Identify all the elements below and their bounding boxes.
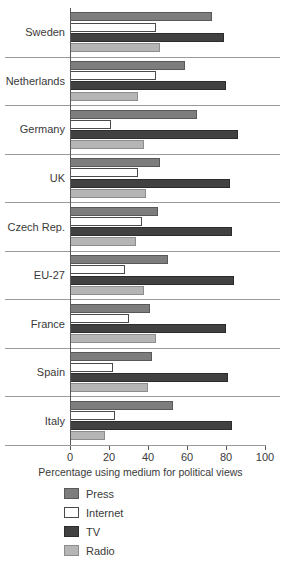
x-axis-tick-label: 0 — [67, 451, 73, 463]
bar-tv[interactable] — [70, 130, 238, 139]
bar-group-bars — [70, 202, 265, 251]
x-axis-tick-label: 60 — [181, 451, 193, 463]
bar-internet[interactable] — [70, 120, 111, 129]
bar-tv[interactable] — [70, 227, 232, 236]
category-label: EU-27 — [34, 269, 65, 281]
bar-press[interactable] — [70, 401, 173, 410]
bar-row — [70, 304, 265, 313]
category-label: Sweden — [25, 26, 65, 38]
legend-swatch-press — [64, 488, 79, 499]
category-label: Italy — [45, 415, 65, 427]
bar-tv[interactable] — [70, 81, 226, 90]
category-label: Germany — [20, 123, 65, 135]
bar-press[interactable] — [70, 352, 152, 361]
bar-row — [70, 227, 265, 236]
bar-row — [70, 265, 265, 274]
legend-label: TV — [86, 526, 100, 538]
category-label: UK — [50, 172, 65, 184]
bar-internet[interactable] — [70, 411, 115, 420]
legend-label: Internet — [86, 507, 123, 519]
bar-row — [70, 217, 265, 226]
bar-press[interactable] — [70, 110, 197, 119]
bar-group — [70, 396, 265, 445]
bar-internet[interactable] — [70, 168, 138, 177]
bar-group-bars — [70, 154, 265, 203]
bar-radio[interactable] — [70, 431, 105, 440]
bar-row — [70, 140, 265, 149]
bar-row — [70, 43, 265, 52]
bar-radio[interactable] — [70, 383, 148, 392]
bar-chart: 020406080100 SwedenNetherlandsGermanyUKC… — [0, 0, 281, 567]
bar-row — [70, 120, 265, 129]
category-label: Czech Rep. — [8, 221, 65, 233]
bar-internet[interactable] — [70, 217, 142, 226]
bar-group — [70, 202, 265, 251]
bar-group — [70, 105, 265, 154]
legend-swatch-internet — [64, 507, 79, 518]
bar-group-bars — [70, 105, 265, 154]
bar-radio[interactable] — [70, 286, 144, 295]
bar-row — [70, 189, 265, 198]
legend-label: Radio — [86, 545, 115, 557]
y-axis-line — [70, 8, 71, 445]
bar-row — [70, 401, 265, 410]
bar-internet[interactable] — [70, 363, 113, 372]
bar-row — [70, 431, 265, 440]
legend-item-internet[interactable]: Internet — [64, 503, 123, 522]
bar-row — [70, 237, 265, 246]
bar-internet[interactable] — [70, 23, 156, 32]
bar-tv[interactable] — [70, 179, 230, 188]
bar-press[interactable] — [70, 61, 185, 70]
bar-radio[interactable] — [70, 43, 160, 52]
bar-tv[interactable] — [70, 33, 224, 42]
bar-row — [70, 286, 265, 295]
bar-group — [70, 251, 265, 300]
bar-row — [70, 71, 265, 80]
bar-group — [70, 57, 265, 106]
bar-row — [70, 158, 265, 167]
bar-radio[interactable] — [70, 140, 144, 149]
x-axis-tick-label: 20 — [103, 451, 115, 463]
bar-row — [70, 130, 265, 139]
legend-item-tv[interactable]: TV — [64, 522, 123, 541]
bar-radio[interactable] — [70, 334, 156, 343]
bar-group — [70, 154, 265, 203]
bar-group — [70, 348, 265, 397]
bar-row — [70, 363, 265, 372]
bar-press[interactable] — [70, 158, 160, 167]
bar-row — [70, 334, 265, 343]
bar-tv[interactable] — [70, 373, 228, 382]
category-label: Spain — [37, 366, 65, 378]
bar-press[interactable] — [70, 12, 212, 21]
bar-internet[interactable] — [70, 265, 125, 274]
bar-group — [70, 299, 265, 348]
bar-tv[interactable] — [70, 276, 234, 285]
x-axis-tick-label: 40 — [142, 451, 154, 463]
bar-row — [70, 12, 265, 21]
bar-tv[interactable] — [70, 421, 232, 430]
legend-item-radio[interactable]: Radio — [64, 541, 123, 560]
bar-group — [70, 8, 265, 57]
plot-area — [70, 8, 265, 445]
bar-row — [70, 411, 265, 420]
bar-press[interactable] — [70, 207, 158, 216]
bar-row — [70, 255, 265, 264]
bar-row — [70, 61, 265, 70]
bar-row — [70, 92, 265, 101]
bar-row — [70, 179, 265, 188]
category-label: Netherlands — [6, 75, 65, 87]
bar-group-bars — [70, 8, 265, 57]
bar-internet[interactable] — [70, 71, 156, 80]
bar-row — [70, 81, 265, 90]
bar-radio[interactable] — [70, 189, 146, 198]
bar-press[interactable] — [70, 304, 150, 313]
bar-radio[interactable] — [70, 92, 138, 101]
bar-press[interactable] — [70, 255, 168, 264]
bar-row — [70, 33, 265, 42]
bar-tv[interactable] — [70, 324, 226, 333]
bar-group-bars — [70, 57, 265, 106]
legend-item-press[interactable]: Press — [64, 484, 123, 503]
bar-radio[interactable] — [70, 237, 136, 246]
bar-row — [70, 324, 265, 333]
bar-internet[interactable] — [70, 314, 129, 323]
